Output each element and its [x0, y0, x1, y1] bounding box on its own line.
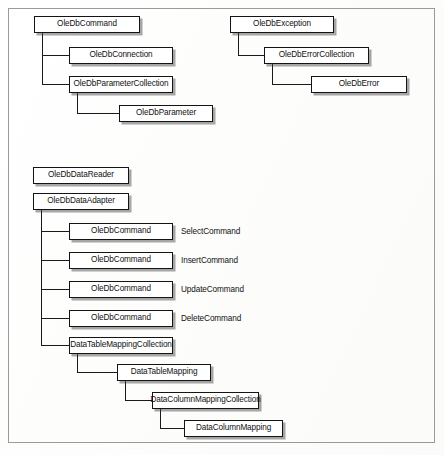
class-box-oledbexception: OleDbException [230, 16, 334, 33]
connector-line [160, 409, 161, 428]
connector-line [77, 113, 119, 114]
property-label-insertcommand-label: InsertCommand [181, 257, 238, 265]
class-box-deletecommand-box: OleDbCommand [69, 310, 173, 327]
connector-line [160, 428, 184, 429]
connector-line [41, 231, 69, 232]
class-box-oledbparametercollection: OleDbParameterCollection [69, 76, 173, 93]
class-box-oledbparameter: OleDbParameter [119, 105, 213, 122]
class-box-selectcommand-box: OleDbCommand [69, 223, 173, 240]
connector-line [272, 64, 273, 84]
class-box-oledbdataadapter: OleDbDataAdapter [33, 193, 129, 210]
connector-line [41, 345, 69, 346]
class-box-oledbdatareader: OleDbDataReader [33, 167, 129, 184]
property-label-selectcommand-label: SelectCommand [181, 228, 240, 236]
connector-line [238, 55, 264, 56]
connector-line [41, 260, 69, 261]
connector-line [42, 84, 69, 85]
class-box-datacolumnmapping: DataColumnMapping [184, 420, 283, 437]
connector-line [238, 33, 239, 55]
connector-line [77, 93, 78, 113]
connector-line [42, 55, 69, 56]
class-box-oledbconnection: OleDbConnection [69, 47, 173, 64]
property-label-updatecommand-label: UpdateCommand [181, 286, 244, 294]
connector-line [77, 354, 78, 372]
connector-line [77, 372, 117, 373]
class-box-datacolumnmappingcollection: DataColumnMappingCollection [152, 392, 259, 409]
connector-line [272, 84, 311, 85]
class-box-insertcommand-box: OleDbCommand [69, 252, 173, 269]
connector-line [125, 381, 126, 400]
class-box-updatecommand-box: OleDbCommand [69, 281, 173, 298]
class-box-datatablemapping: DataTableMapping [117, 364, 211, 381]
class-hierarchy-figure: OleDbCommandOleDbConnectionOleDbParamete… [0, 0, 444, 455]
class-box-oledbcommand-root: OleDbCommand [34, 16, 140, 33]
class-box-datatablemappingcollection: DataTableMappingCollection [69, 337, 173, 354]
class-box-oledberrorcollection: OleDbErrorCollection [264, 47, 369, 64]
class-box-oledberror: OleDbError [311, 76, 407, 93]
property-label-deletecommand-label: DeleteCommand [181, 315, 241, 323]
connector-line [41, 318, 69, 319]
connector-line [42, 33, 43, 85]
connector-line [125, 400, 152, 401]
connector-line [41, 289, 69, 290]
